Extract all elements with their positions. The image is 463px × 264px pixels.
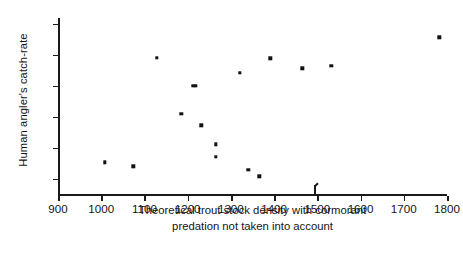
y-axis-tick — [53, 86, 60, 88]
x-axis-tick — [188, 196, 190, 201]
y-axis-tick — [53, 24, 60, 26]
x-axis-label: Theoretical trout stock density with cor… — [58, 203, 447, 234]
data-point — [238, 71, 241, 74]
x-axis-tick — [274, 196, 276, 201]
x-axis-tick — [58, 196, 60, 201]
x-axis-tick — [404, 196, 406, 201]
y-axis-tick — [53, 55, 60, 57]
data-point — [200, 123, 203, 126]
x-axis-tick — [231, 196, 233, 201]
x-axis-label-line-2: predation not taken into account — [58, 219, 447, 235]
data-point — [214, 143, 217, 146]
data-point — [214, 155, 217, 158]
data-point — [269, 56, 272, 59]
data-point — [437, 36, 440, 39]
data-point — [155, 56, 158, 59]
x-axis-line — [58, 194, 447, 196]
data-point — [246, 168, 249, 171]
data-point — [194, 84, 197, 87]
x-axis-label-line-1: Theoretical trout stock density with cor… — [58, 203, 447, 219]
y-axis-tick — [53, 117, 60, 119]
data-point — [329, 64, 332, 67]
x-axis-tick — [317, 196, 319, 201]
y-axis-label-container: Human angler's catch-rate — [0, 0, 46, 200]
x-axis-tick — [361, 196, 363, 201]
x-axis-tick — [144, 196, 146, 201]
data-point — [179, 112, 182, 115]
y-axis-tick — [53, 148, 60, 150]
data-point — [300, 67, 303, 70]
data-point — [131, 164, 134, 167]
marker-barb — [314, 183, 318, 187]
plot-area: 900100011001200130014001500160017001800 — [58, 18, 447, 196]
data-point — [258, 174, 261, 177]
x-axis-tick — [447, 196, 449, 201]
scatter-chart-figure: Human angler's catch-rate 90010001100120… — [0, 0, 463, 264]
y-axis-tick — [53, 179, 60, 181]
x-axis-tick — [101, 196, 103, 201]
y-axis-label: Human angler's catch-rate — [17, 33, 29, 166]
y-axis-line — [58, 18, 60, 196]
data-point — [103, 160, 106, 163]
